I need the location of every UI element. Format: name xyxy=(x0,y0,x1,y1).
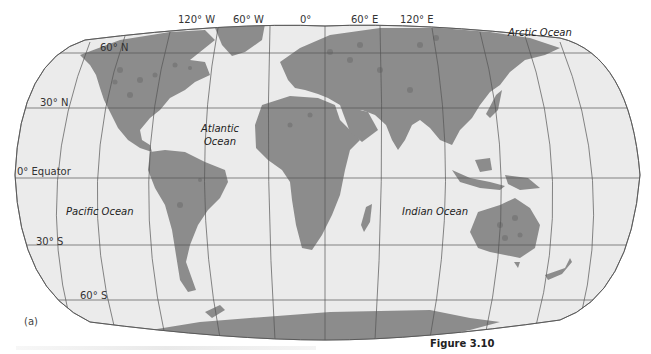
ocean-label-pacific: Pacific Ocean xyxy=(66,205,134,218)
meridian-label-0: 0° xyxy=(300,14,311,25)
ocean-label-atlantic: Atlantic Ocean xyxy=(190,122,250,148)
parallel-label-30s: 30° S xyxy=(36,236,63,247)
decorative-strip xyxy=(16,346,316,350)
ocean-label-atlantic-line1: Atlantic xyxy=(190,122,250,135)
meridian-label-120e: 120° E xyxy=(400,14,434,25)
meridian-label-60e: 60° E xyxy=(351,14,378,25)
parallel-label-30n: 30° N xyxy=(40,97,68,108)
meridian-label-60w: 60° W xyxy=(233,14,264,25)
ocean-label-arctic: Arctic Ocean xyxy=(508,26,572,39)
meridian-label-120w: 120° W xyxy=(178,14,215,25)
panel-label: (a) xyxy=(24,316,38,327)
parallel-label-60s: 60° S xyxy=(80,290,107,301)
ocean-label-indian: Indian Ocean xyxy=(402,205,468,218)
figure-caption: Figure 3.10 xyxy=(430,338,494,349)
parallel-label-60n: 60° N xyxy=(100,42,128,53)
parallel-label-equator: 0° Equator xyxy=(17,166,71,177)
ocean-label-atlantic-line2: Ocean xyxy=(190,135,250,148)
